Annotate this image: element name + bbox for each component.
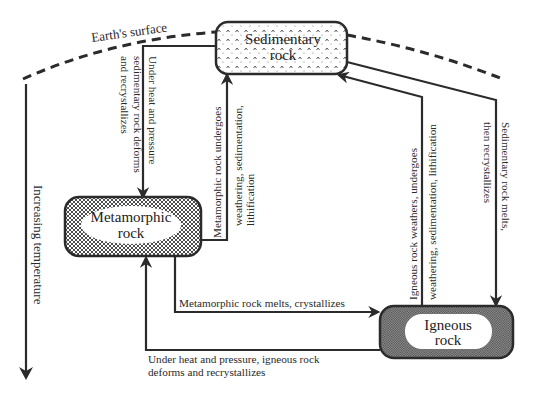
edge-meta-to-sed-label-3: lithification <box>244 173 256 226</box>
edge-meta-to-sed-label-1: Metamorphic rock undergoes <box>211 106 223 238</box>
igneous-label-1: Igneous <box>424 317 472 333</box>
node-sedimentary-rock: Sedimentary rock <box>216 22 347 74</box>
edge-sed-to-meta-label-1: Under heat and pressure <box>147 56 159 164</box>
edge-ign-to-sed-label-1: Igneous rock weathers, undergoes <box>407 148 419 300</box>
edge-sed-to-meta-label-2: sedimentary rock deforms <box>132 56 144 173</box>
edge-ign-to-meta-label-2: deforms and recrystallizes <box>148 366 265 378</box>
edge-sed-to-ign-label-2: then recrystallizes <box>482 122 494 203</box>
edge-sed-to-meta-label-3: and recrystallizes <box>119 56 131 134</box>
sedimentary-label-2: rock <box>270 47 297 63</box>
metamorphic-label-2: rock <box>118 225 145 241</box>
edge-meta-to-ign-label: Metamorphic rock melts, crystallizes <box>179 297 345 309</box>
node-igneous-rock: Igneous rock <box>380 306 513 358</box>
temperature-axis <box>19 84 33 380</box>
edge-sed-to-ign-label-1: Sedimentary rock melts, <box>500 122 512 231</box>
node-metamorphic-rock: Metamorphic rock <box>65 197 201 256</box>
temperature-axis-label: Increasing temperature <box>31 185 46 305</box>
rock-cycle-diagram: Earth's surface Increasing temperature U… <box>0 0 533 400</box>
earths-surface-label: Earth's surface <box>90 19 168 45</box>
edge-ign-to-sed-label-2: weathering, sedimentation, lithification <box>426 124 438 300</box>
edge-ign-to-meta-label-1: Under heat and pressure, igneous rock <box>148 353 320 365</box>
igneous-label-2: rock <box>435 332 462 348</box>
sedimentary-label-1: Sedimentary <box>245 31 321 47</box>
edge-meta-to-sed-label-2: weathering, sedimentation, <box>232 105 244 226</box>
metamorphic-label-1: Metamorphic <box>91 209 172 225</box>
